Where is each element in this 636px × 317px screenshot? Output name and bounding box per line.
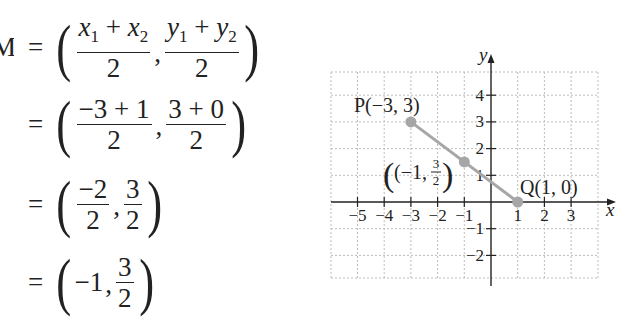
label-point-q: Q(1, 0) — [520, 176, 578, 199]
svg-text:−2: −2 — [429, 206, 447, 225]
svg-text:3: 3 — [567, 206, 576, 225]
svg-text:4: 4 — [476, 86, 485, 105]
svg-text:3: 3 — [433, 156, 440, 171]
svg-text:−1: −1 — [466, 219, 484, 238]
svg-text:2: 2 — [476, 139, 485, 158]
svg-text:): ) — [442, 156, 453, 194]
x-axis-label: x — [605, 199, 615, 220]
point-p — [405, 116, 416, 127]
label-midpoint: ( (−1, 3 2 ) — [383, 156, 453, 194]
svg-text:1: 1 — [513, 206, 522, 225]
svg-text:−3: −3 — [402, 206, 420, 225]
svg-text:−4: −4 — [375, 206, 394, 225]
svg-text:2: 2 — [540, 206, 549, 225]
svg-text:2: 2 — [433, 173, 440, 188]
svg-text:(−1,: (−1, — [394, 161, 427, 184]
svg-text:−5: −5 — [348, 206, 366, 225]
point-q — [512, 197, 523, 208]
point-midpoint — [459, 156, 470, 167]
y-axis-arrow-icon — [488, 54, 495, 63]
x-tick-labels: −5 −4 −3 −2 −1 1 2 3 — [348, 206, 575, 225]
svg-text:3: 3 — [476, 112, 485, 131]
svg-text:(: ( — [383, 156, 394, 194]
label-point-p: P(−3, 3) — [354, 94, 420, 117]
y-axis-label: y — [477, 44, 488, 65]
svg-text:−2: −2 — [466, 246, 484, 265]
